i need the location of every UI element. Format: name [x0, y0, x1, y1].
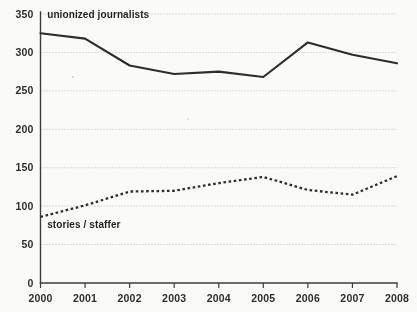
gridlines: [41, 14, 398, 245]
x-axis-tick-marks: [41, 283, 398, 288]
y-axis-tick-label: 100: [15, 200, 33, 212]
y-axis-tick-label: 300: [15, 46, 33, 58]
x-axis-tick-label: 2007: [340, 292, 364, 304]
series-annotation-label: unionized journalists: [47, 9, 149, 20]
x-axis-tick-label: 2003: [162, 292, 186, 304]
series-annotation-label: stories / staffer: [47, 219, 120, 230]
series-line-unionized-journalists: [41, 33, 398, 77]
y-axis-tick-label: 250: [15, 84, 33, 96]
y-axis-tick-label: 350: [15, 8, 33, 20]
x-axis-tick-label: 2008: [385, 292, 409, 304]
x-axis-tick-label: 2001: [73, 292, 97, 304]
x-axis-tick-label: 2004: [207, 292, 231, 304]
series-line-stories-per-staffer: [41, 176, 398, 217]
y-axis-tick-label: 0: [27, 277, 33, 289]
series-annotations: unionized journalistsstories / staffer: [47, 9, 149, 230]
x-axis-tick-label: 2006: [296, 292, 320, 304]
line-chart: 050100150200250300350 200020012002200320…: [0, 0, 417, 312]
chart-figure: 050100150200250300350 200020012002200320…: [0, 0, 417, 312]
y-axis-tick-labels: 050100150200250300350: [15, 8, 33, 289]
y-axis-tick-label: 200: [15, 123, 33, 135]
x-axis-tick-labels: 200020012002200320042005200620072008: [28, 292, 409, 304]
scan-artifacts: [72, 45, 312, 119]
x-axis-tick-label: 2000: [28, 292, 52, 304]
y-axis-tick-label: 50: [21, 238, 33, 250]
x-axis-tick-label: 2005: [251, 292, 275, 304]
x-axis-tick-label: 2002: [118, 292, 142, 304]
y-axis-tick-label: 150: [15, 161, 33, 173]
